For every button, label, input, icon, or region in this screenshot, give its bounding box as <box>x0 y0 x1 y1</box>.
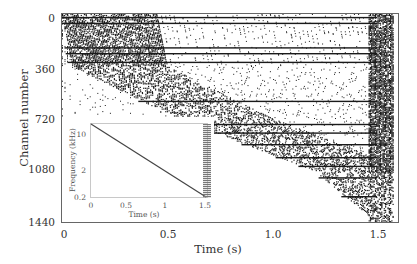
y-axis: 0 360 720 1080 1440 Channel number <box>17 12 55 228</box>
inset-x-tick: 1 <box>163 201 168 210</box>
y-tick: 1440 <box>28 216 55 228</box>
y-tick: 720 <box>35 113 55 125</box>
inset-x-tick: 0 <box>89 201 94 210</box>
x-axis-label: Time (s) <box>194 242 242 256</box>
x-axis: 0 0.5 1.0 1.5 Time (s) <box>61 228 387 256</box>
inset-x-tick: 0.5 <box>120 201 132 210</box>
inset-chart: 10 2 0.2 0 0.5 1 1.5 Time (s) Frequency … <box>64 117 214 220</box>
inset-y-tick: 0.2 <box>74 193 86 202</box>
x-tick: 0 <box>61 228 68 240</box>
y-tick: 1080 <box>28 163 55 175</box>
inset-x-tick: 1.5 <box>199 201 211 210</box>
y-axis-label: Channel number <box>17 69 31 167</box>
x-tick: 1.0 <box>265 228 282 240</box>
x-tick: 1.5 <box>370 228 387 240</box>
inset-y-tick: 2 <box>81 166 86 175</box>
inset-channel-bar <box>203 124 211 197</box>
y-tick: 0 <box>48 12 55 24</box>
inset-background <box>64 117 214 220</box>
x-tick: 0.5 <box>160 228 177 240</box>
inset-y-tick: 10 <box>76 130 86 139</box>
raster-figure: 0 360 720 1080 1440 Channel number 0 0.5… <box>0 0 417 264</box>
y-tick: 360 <box>35 63 55 75</box>
inset-y-label: Frequency (kHz) <box>68 128 77 192</box>
inset-x-label: Time (s) <box>128 210 159 219</box>
